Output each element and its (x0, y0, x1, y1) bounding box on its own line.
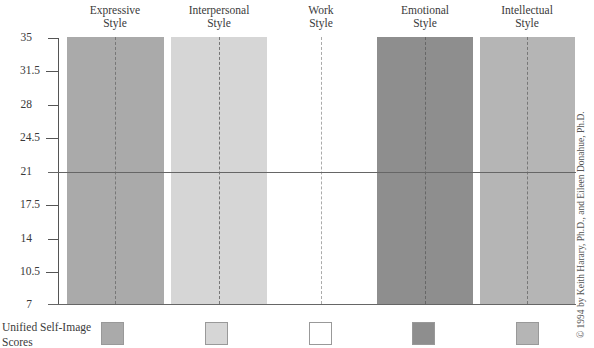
column-title-work: Work Style (266, 4, 376, 30)
y-tick-label: 10.5 (0, 265, 40, 277)
title-line: Work (266, 4, 376, 17)
bar-emotional (377, 37, 473, 304)
title-line: Expressive (60, 4, 170, 17)
title-line: Style (60, 17, 170, 30)
y-tick-label: 24.5 (0, 131, 40, 143)
y-tick (46, 205, 58, 206)
title-line: Emotional (370, 4, 480, 17)
y-tick-label: 21 (0, 165, 32, 177)
legend-label-line1: Unified Self-Image (2, 320, 91, 335)
legend-label: Unified Self-Image Scores (2, 320, 91, 348)
reference-line-21 (48, 172, 576, 173)
y-tick-label: 28 (0, 98, 32, 110)
column-title-emotional: Emotional Style (370, 4, 480, 30)
y-tick (46, 272, 58, 273)
bar-work (273, 37, 370, 304)
title-line: Style (164, 17, 274, 30)
column-title-expressive: Expressive Style (60, 4, 170, 30)
y-tick-label: 14 (0, 232, 32, 244)
bar-interpersonal (171, 37, 267, 304)
y-tick-label: 17.5 (0, 198, 40, 210)
column-title-interpersonal: Interpersonal Style (164, 4, 274, 30)
y-tick (48, 38, 58, 39)
x-axis-line (48, 304, 576, 305)
swatch-interpersonal (205, 322, 228, 345)
y-tick-label: 7 (0, 298, 32, 310)
column-title-intellectual: Intellectual Style (472, 4, 582, 30)
midline (527, 37, 528, 304)
midline (115, 37, 116, 304)
y-tick (48, 239, 58, 240)
midline (425, 37, 426, 304)
y-tick (46, 71, 58, 72)
swatch-intellectual (516, 322, 539, 345)
swatch-work (309, 322, 332, 345)
title-line: Style (370, 17, 480, 30)
swatch-emotional (412, 322, 435, 345)
title-line: Style (472, 17, 582, 30)
bar-expressive (67, 37, 164, 304)
title-line: Interpersonal (164, 4, 274, 17)
y-tick (48, 105, 58, 106)
legend-label-line2: Scores (2, 335, 91, 348)
bar-intellectual (480, 37, 575, 304)
midline (321, 37, 322, 304)
midline (219, 37, 220, 304)
copyright-notice: © 1994 by Keith Harary, Ph.D., and Eilee… (576, 111, 586, 338)
y-tick-label: 35 (0, 31, 32, 43)
title-line: Intellectual (472, 4, 582, 17)
y-tick-label: 31.5 (0, 64, 40, 76)
y-tick (46, 138, 58, 139)
swatch-expressive (101, 322, 124, 345)
y-axis-line (58, 38, 59, 304)
title-line: Style (266, 17, 376, 30)
